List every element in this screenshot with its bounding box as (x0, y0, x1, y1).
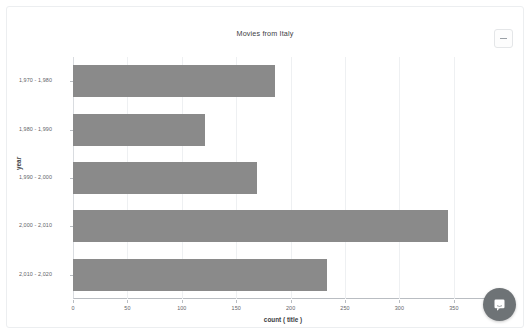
y-tick-mark (70, 275, 73, 276)
chart-card: Movies from Italy 1,970 - 1,9801,980 - 1… (6, 6, 524, 328)
x-tick-label: 350 (449, 305, 458, 311)
y-axis-title: year (15, 157, 22, 170)
x-tick-label: 0 (71, 305, 74, 311)
gridline (454, 57, 455, 299)
x-axis-title: count ( title ) (73, 316, 493, 323)
gridline (399, 57, 400, 299)
bar[interactable] (73, 114, 205, 146)
x-tick-label: 250 (340, 305, 349, 311)
y-tick-mark (70, 81, 73, 82)
gridline (345, 57, 346, 299)
y-tick-label: 2,000 - 2,010 (19, 222, 52, 228)
x-tick-label: 150 (232, 305, 241, 311)
x-tick-mark (236, 300, 237, 303)
y-tick-mark (70, 130, 73, 131)
y-tick-mark (70, 226, 73, 227)
x-tick-mark (454, 300, 455, 303)
y-tick-label: 1,980 - 1,990 (19, 126, 52, 132)
x-tick-mark (182, 300, 183, 303)
bar[interactable] (73, 65, 275, 97)
x-tick-mark (73, 300, 74, 303)
plot-area (73, 57, 493, 299)
y-tick-label: 2,010 - 2,020 (19, 271, 52, 277)
y-tick-label: 1,970 - 1,980 (19, 77, 52, 83)
bar[interactable] (73, 210, 448, 242)
bar[interactable] (73, 259, 327, 291)
x-tick-mark (127, 300, 128, 303)
y-tick-label: 1,990 - 2,000 (19, 174, 52, 180)
x-tick-mark (291, 300, 292, 303)
minimize-glyph (500, 38, 507, 39)
chat-bubble-icon[interactable] (483, 288, 516, 321)
bar[interactable] (73, 162, 257, 194)
chart-header: Movies from Italy (7, 7, 523, 41)
x-tick-mark (345, 300, 346, 303)
minimize-icon[interactable] (494, 29, 513, 48)
page-title: Movies from Italy (7, 29, 523, 38)
x-tick-label: 50 (124, 305, 130, 311)
x-tick-label: 200 (286, 305, 295, 311)
y-tick-mark (70, 178, 73, 179)
x-tick-mark (399, 300, 400, 303)
x-tick-label: 300 (395, 305, 404, 311)
x-tick-label: 100 (177, 305, 186, 311)
chart-page: Movies from Italy 1,970 - 1,9801,980 - 1… (0, 0, 532, 336)
